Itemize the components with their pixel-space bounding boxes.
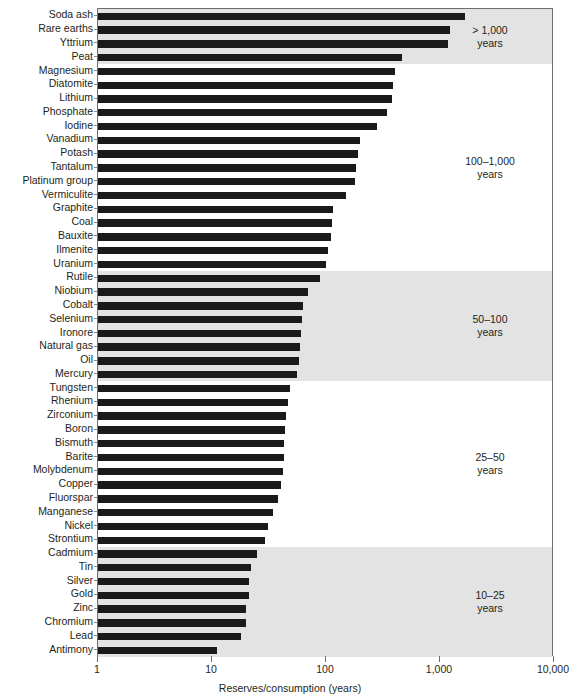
- bar-row: [98, 616, 554, 630]
- category-label: Zinc: [5, 602, 93, 613]
- bar: [98, 13, 465, 20]
- category-tick: [94, 111, 97, 112]
- bar-row: [98, 381, 554, 395]
- bar: [98, 495, 278, 502]
- bar: [98, 123, 377, 130]
- bar: [98, 68, 395, 75]
- category-tick: [94, 360, 97, 361]
- bar-row: [98, 64, 554, 78]
- category-label: Mercury: [5, 368, 93, 379]
- bar: [98, 605, 246, 612]
- group-label: > 1,000 years: [438, 24, 542, 50]
- category-label: Strontium: [5, 533, 93, 544]
- bar-row: [98, 547, 554, 561]
- bar-row: [98, 409, 554, 423]
- bar-row: [98, 216, 554, 230]
- category-label: Barite: [5, 451, 93, 462]
- category-label: Fluorspar: [5, 492, 93, 503]
- category-label: Molybdenum: [5, 464, 93, 475]
- category-tick: [94, 304, 97, 305]
- category-label: Gold: [5, 588, 93, 599]
- category-label: Boron: [5, 423, 93, 434]
- bar-row: [98, 436, 554, 450]
- bar: [98, 537, 265, 544]
- category-label: Platinum group: [5, 175, 93, 186]
- bar: [98, 633, 241, 640]
- category-label: Yttrium: [5, 37, 93, 48]
- x-axis-title: Reserves/consumption (years): [0, 682, 580, 694]
- bar: [98, 82, 393, 89]
- category-label: Bismuth: [5, 437, 93, 448]
- category-tick: [94, 263, 97, 264]
- category-tick: [94, 332, 97, 333]
- bar: [98, 619, 246, 626]
- bar-row: [98, 9, 554, 23]
- bar-row: [98, 354, 554, 368]
- bar-row: [98, 629, 554, 643]
- bar: [98, 95, 392, 102]
- category-tick: [94, 553, 97, 554]
- bar: [98, 578, 249, 585]
- bar-row: [98, 92, 554, 106]
- bar: [98, 550, 257, 557]
- category-label: Iodine: [5, 120, 93, 131]
- category-tick: [94, 235, 97, 236]
- bar-row: [98, 533, 554, 547]
- bar: [98, 468, 283, 475]
- bar-row: [98, 119, 554, 133]
- category-label: Natural gas: [5, 340, 93, 351]
- bar: [98, 564, 251, 571]
- bar-row: [98, 202, 554, 216]
- bar-row: [98, 505, 554, 519]
- x-tick-mark: [439, 656, 440, 662]
- category-tick: [94, 484, 97, 485]
- bar: [98, 275, 320, 282]
- bar: [98, 26, 450, 33]
- bar: [98, 261, 326, 268]
- category-label: Nickel: [5, 520, 93, 531]
- bar-row: [98, 50, 554, 64]
- bar: [98, 426, 285, 433]
- category-tick: [94, 125, 97, 126]
- bar: [98, 54, 402, 61]
- x-tick-label: 10: [205, 663, 217, 675]
- bar-row: [98, 299, 554, 313]
- bar-row: [98, 367, 554, 381]
- category-label: Copper: [5, 478, 93, 489]
- bar: [98, 481, 281, 488]
- category-label: Niobium: [5, 285, 93, 296]
- category-tick: [94, 580, 97, 581]
- category-tick: [94, 180, 97, 181]
- category-label: Vanadium: [5, 133, 93, 144]
- x-tick-label: 10,000: [537, 663, 569, 675]
- bar: [98, 385, 290, 392]
- category-tick: [94, 42, 97, 43]
- category-tick: [94, 401, 97, 402]
- category-label: Rutile: [5, 271, 93, 282]
- category-tick: [94, 622, 97, 623]
- bar-row: [98, 243, 554, 257]
- bar-row: [98, 78, 554, 92]
- category-label: Rhenium: [5, 395, 93, 406]
- category-tick: [94, 442, 97, 443]
- category-tick: [94, 222, 97, 223]
- bar-row: [98, 574, 554, 588]
- bar-row: [98, 423, 554, 437]
- category-label: Diatomite: [5, 78, 93, 89]
- category-label: Oil: [5, 354, 93, 365]
- category-label: Soda ash: [5, 9, 93, 20]
- bar: [98, 206, 333, 213]
- bar: [98, 137, 360, 144]
- bar-row: [98, 230, 554, 244]
- category-tick: [94, 277, 97, 278]
- bar: [98, 412, 286, 419]
- bar: [98, 647, 217, 654]
- category-tick: [94, 70, 97, 71]
- bar: [98, 509, 273, 516]
- category-tick: [94, 456, 97, 457]
- bar-row: [98, 106, 554, 120]
- category-label: Magnesium: [5, 65, 93, 76]
- bar: [98, 343, 300, 350]
- category-tick: [94, 15, 97, 16]
- group-label: 10–25 years: [438, 589, 542, 615]
